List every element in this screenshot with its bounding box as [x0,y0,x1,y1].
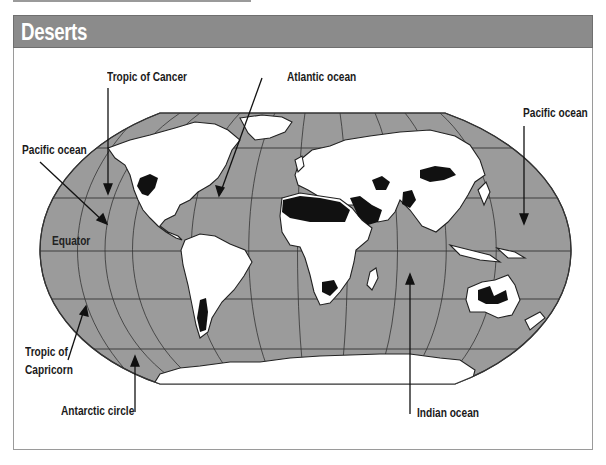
label-indian-ocean: Indian ocean [417,405,479,421]
label-equator: Equator [52,233,90,249]
label-pacific-ocean-right: Pacific ocean [523,105,588,121]
label-pacific-ocean-left: Pacific ocean [22,142,87,158]
label-tropic-of-cancer: Tropic of Cancer [107,69,187,85]
label-tropic-of-capricorn-line2: Capricorn [25,362,73,378]
label-atlantic-ocean: Atlantic ocean [287,69,356,85]
label-tropic-of-capricorn-line1: Tropic of [25,344,68,360]
label-antarctic-circle: Antarctic circle [61,403,134,419]
